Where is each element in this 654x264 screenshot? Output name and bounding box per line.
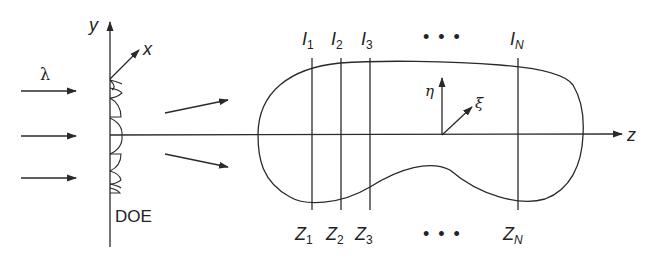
position-label-N: ZN — [502, 224, 523, 247]
z-axis-arrow-icon — [110, 134, 622, 135]
x-axis: x — [110, 39, 153, 79]
diffracted-arrow-icon — [165, 154, 228, 167]
intensity-labels: I1 I2 I3 IN • • • — [302, 27, 524, 52]
z-axis-label: z — [626, 125, 636, 145]
intensity-label-3: I3 — [361, 29, 373, 52]
x-axis-arrow-icon — [110, 50, 139, 79]
position-label-3: Z3 — [354, 224, 373, 247]
diffracted-beams — [165, 100, 228, 167]
incident-wave: λ — [21, 65, 76, 178]
intensity-label-2: I2 — [331, 29, 343, 52]
y-axis-label: y — [87, 15, 99, 35]
diffracted-arrow-icon — [165, 100, 228, 113]
intensity-label-1: I1 — [302, 29, 314, 52]
doe-diagram: λ y x DOE z I1 I2 — [0, 0, 654, 264]
ellipsis-top: • • • — [423, 27, 462, 47]
wavelength-label: λ — [40, 65, 50, 84]
intensity-volume-outline — [258, 61, 583, 202]
z-axis: z — [110, 125, 636, 145]
ellipsis-bottom: • • • — [423, 224, 462, 244]
doe-structure-icon — [110, 80, 122, 193]
xi-label: ξ — [475, 94, 484, 112]
local-frame: η ξ — [425, 78, 484, 135]
intensity-label-N: IN — [510, 29, 524, 52]
eta-label: η — [425, 82, 434, 100]
xi-axis-arrow-icon — [442, 107, 472, 135]
position-label-1: Z1 — [294, 224, 313, 247]
doe-label: DOE — [115, 207, 152, 226]
position-label-2: Z2 — [325, 224, 344, 247]
y-axis: y — [87, 15, 110, 247]
position-labels: Z1 Z2 Z3 ZN • • • — [294, 224, 523, 247]
x-axis-label: x — [142, 39, 153, 59]
